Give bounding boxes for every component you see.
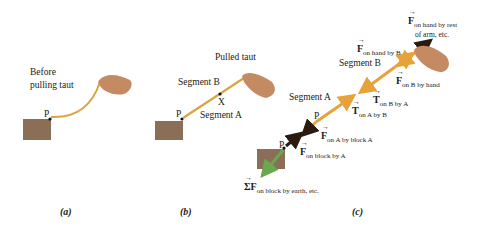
- label-segment-b: Segment B: [178, 78, 220, 88]
- block-a: [23, 119, 51, 140]
- label-segment-a-c: Segment A: [289, 93, 331, 103]
- f-hand-by-b-arrow: [403, 52, 416, 62]
- vec-f-a-by-block: Fon A by block A: [321, 131, 373, 144]
- f-block-by-a-arrow: [286, 137, 297, 146]
- label-pulling-taut: pulling taut: [30, 81, 74, 91]
- vec-f-b-by-hand: Fon B by hand: [396, 76, 440, 89]
- label-point-x: X: [218, 98, 225, 108]
- label-pulled-taut: Pulled taut: [215, 53, 256, 63]
- rope-tension-diagram: Before pulling taut P (a) Pulled taut Se…: [0, 0, 483, 232]
- point-p-lower: P: [279, 141, 284, 151]
- t-b-by-a-arrow: [365, 67, 395, 89]
- vec-f-block-by-a: Fon block by A: [300, 147, 346, 160]
- point-x: [218, 92, 221, 95]
- vec-f-hand-by-arm: Fon hand by rest: [408, 16, 457, 29]
- caption-b: (b): [180, 206, 192, 217]
- point-p-upper: P: [314, 112, 319, 122]
- caption-a: (a): [60, 206, 72, 217]
- vec-t-a-by-b: Ton A by B: [352, 106, 387, 119]
- f-a-by-block-arrow: [307, 122, 316, 131]
- hand-icon-b: [242, 73, 275, 98]
- vec-f-hand-by-b: Fon hand by B: [357, 44, 401, 57]
- point-p-b: P: [176, 110, 181, 120]
- label-segment-b-c: Segment B: [339, 59, 381, 69]
- vec-sum-f-block-by-earth: ΣFon block by earth, etc.: [244, 182, 319, 195]
- label-before: Before: [30, 68, 56, 78]
- block-b: [155, 121, 183, 140]
- caption-c: (c): [352, 206, 363, 217]
- hand-icon-c: [414, 46, 449, 72]
- hand-icon-a: [98, 75, 132, 95]
- label-segment-a: Segment A: [200, 111, 242, 121]
- point-p-a: P: [44, 110, 49, 120]
- vec-f-hand-by-arm-line2: of arm, etc.: [415, 31, 449, 39]
